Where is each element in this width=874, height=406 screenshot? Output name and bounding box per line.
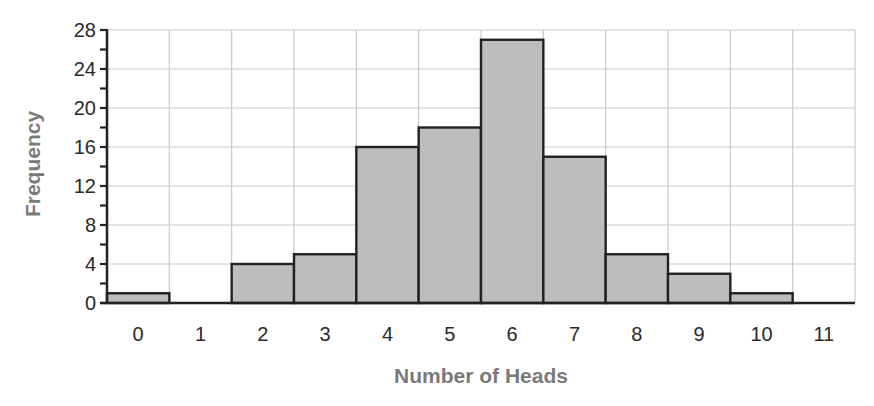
- y-tick-label: 12: [74, 175, 96, 197]
- bar-7: [543, 157, 605, 303]
- y-tick-label: 8: [85, 214, 96, 236]
- y-tick-label: 20: [74, 97, 96, 119]
- x-tick-label: 8: [631, 323, 642, 345]
- x-tick-label: 5: [444, 323, 455, 345]
- bar-6: [481, 40, 543, 303]
- y-tick-label: 24: [74, 58, 96, 80]
- x-axis-tick-labels: 01234567891011: [133, 323, 835, 345]
- bar-3: [294, 254, 356, 303]
- bar-8: [606, 254, 668, 303]
- bar-0: [107, 293, 169, 303]
- x-tick-label: 10: [750, 323, 772, 345]
- y-tick-label: 0: [85, 292, 96, 314]
- x-tick-label: 7: [569, 323, 580, 345]
- y-tick-label: 16: [74, 136, 96, 158]
- bar-2: [232, 264, 294, 303]
- y-axis-title: Frequency: [21, 111, 44, 218]
- y-tick-label: 4: [85, 253, 96, 275]
- x-tick-label: 1: [195, 323, 206, 345]
- x-tick-label: 6: [507, 323, 518, 345]
- x-tick-label: 11: [813, 323, 834, 345]
- y-axis-tick-labels: 0481216202428: [74, 19, 96, 314]
- x-axis-title: Number of Heads: [394, 364, 568, 387]
- histogram-chart: 0481216202428 01234567891011 Frequency N…: [0, 0, 874, 406]
- x-tick-label: 0: [133, 323, 144, 345]
- bar-5: [419, 128, 481, 304]
- x-tick-label: 3: [320, 323, 331, 345]
- bar-10: [730, 293, 792, 303]
- y-tick-label: 28: [74, 19, 96, 41]
- bar-9: [668, 274, 730, 303]
- x-tick-label: 9: [694, 323, 705, 345]
- x-tick-label: 2: [257, 323, 268, 345]
- bar-4: [356, 147, 418, 303]
- x-tick-label: 4: [382, 323, 393, 345]
